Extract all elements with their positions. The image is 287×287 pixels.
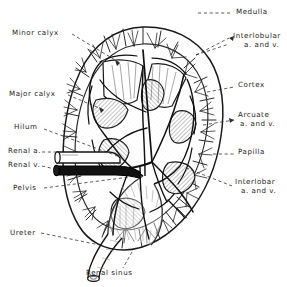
label-cortex: Cortex [238, 81, 265, 90]
label-hilum: Hilum [14, 123, 37, 132]
label-minor-calyx: Minor calyx [12, 29, 59, 38]
leader-renal-v [42, 166, 55, 169]
medullary-pyramid [103, 60, 143, 104]
label-renal-vein: Renal v. [8, 161, 40, 170]
kidney-anatomy-figure: Minor calyx Major calyx Hilum Renal a. R… [0, 0, 287, 287]
label-arcuate-line2: a. and v. [240, 120, 275, 129]
label-renal-artery: Renal a. [8, 147, 41, 156]
kidney-body [60, 25, 230, 255]
label-renal-sinus: Renal sinus [86, 269, 132, 278]
label-interlobar-line2: a. and v. [241, 187, 276, 196]
label-major-calyx: Major calyx [9, 90, 56, 99]
label-ureter: Ureter [10, 229, 36, 238]
label-medulla: Medulla [236, 8, 268, 17]
label-pelvis: Pelvis [13, 184, 37, 193]
label-interlobular-line2: a. and v. [244, 41, 279, 50]
leader-renal-sinus [123, 252, 132, 268]
label-papilla: Papilla [238, 148, 265, 157]
